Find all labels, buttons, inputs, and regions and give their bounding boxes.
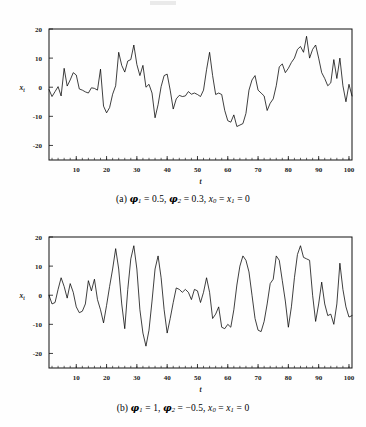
- caption-b-phi2-symbol: φ: [163, 402, 172, 413]
- x-tick-label: 100: [344, 166, 355, 174]
- caption-a-phi2-symbol: φ: [169, 193, 178, 204]
- y-tick-label: 20: [35, 234, 43, 242]
- x-tick-label: 80: [285, 166, 293, 174]
- chart-a-canvas: 20100-10-20102030405060708090100txt: [0, 8, 366, 186]
- x-tick-label: 10: [73, 374, 81, 382]
- caption-a-x1-sub: 1: [231, 197, 234, 204]
- x-tick-label: 40: [164, 166, 172, 174]
- x-tick-label: 90: [315, 166, 323, 174]
- figure-a: 20100-10-20102030405060708090100txt (a) …: [0, 8, 366, 213]
- x-tick-label: 50: [194, 166, 202, 174]
- y-tick-label: -10: [33, 321, 43, 329]
- y-tick-label: 10: [35, 263, 43, 271]
- caption-b-phi2-sub: 2: [172, 406, 175, 413]
- x-tick-label: 30: [133, 374, 141, 382]
- caption-b-phi2-value: = −0.5,: [178, 403, 206, 413]
- caption-a-phi1-symbol: φ: [129, 193, 138, 204]
- y-tick-label: -20: [33, 350, 43, 358]
- x-axis-label: t: [199, 385, 202, 394]
- caption-b-phi1-sub: 1: [139, 406, 142, 413]
- caption-a-x0-sub: 0: [213, 197, 216, 204]
- x-tick-label: 90: [315, 374, 323, 382]
- chart-b-canvas: 20100-10-20102030405060708090100txt: [0, 216, 366, 394]
- figure-a-caption: (a) φ1 = 0.5, φ2 = 0.3, x0 = x1 = 0: [0, 193, 366, 204]
- caption-b-x0-sub: 0: [212, 406, 215, 413]
- y-tick-label: -10: [33, 113, 43, 121]
- x-tick-label: 50: [194, 374, 202, 382]
- caption-a-eq-mid: =: [219, 194, 224, 204]
- x-tick-label: 80: [285, 374, 293, 382]
- y-tick-label: 0: [39, 84, 43, 92]
- y-axis-label: xt: [18, 83, 25, 93]
- y-tick-label: 10: [35, 55, 43, 63]
- figure-b: 20100-10-20102030405060708090100txt (b) …: [0, 216, 366, 422]
- caption-a-phi2-sub: 2: [178, 197, 181, 204]
- x-tick-label: 70: [255, 166, 263, 174]
- y-tick-label: 20: [35, 26, 43, 34]
- caption-a-phi1-value: = 0.5,: [144, 194, 167, 204]
- plot-area-a: 20100-10-20102030405060708090100txt: [0, 8, 366, 186]
- x-tick-label: 10: [73, 166, 81, 174]
- y-tick-label: -20: [33, 142, 43, 150]
- x-tick-label: 20: [103, 166, 111, 174]
- x-tick-label: 60: [224, 374, 232, 382]
- x-tick-label: 20: [103, 374, 111, 382]
- x-tick-label: 40: [164, 374, 172, 382]
- series-line: [49, 246, 352, 346]
- x-axis-label: t: [199, 177, 202, 186]
- caption-a-phi2-value: = 0.3,: [184, 194, 207, 204]
- caption-b-x1-value: = 0: [236, 403, 249, 413]
- caption-a-phi1-sub: 1: [138, 197, 141, 204]
- plot-frame: [49, 29, 352, 160]
- caption-b-phi1-symbol: φ: [131, 402, 140, 413]
- x-tick-label: 70: [255, 374, 263, 382]
- cropped-text-artifact: [150, 1, 176, 5]
- figure-b-caption: (b) φ1 = 1, φ2 = −0.5, x0 = x1 = 0: [0, 402, 366, 413]
- series-line: [49, 36, 352, 126]
- caption-b-phi1-value: = 1,: [145, 403, 160, 413]
- x-tick-label: 100: [344, 374, 355, 382]
- figure-page: 20100-10-20102030405060708090100txt (a) …: [0, 0, 366, 427]
- caption-a-x1-value: = 0: [237, 194, 250, 204]
- caption-b-x1-sub: 1: [231, 406, 234, 413]
- y-tick-label: 0: [39, 292, 43, 300]
- caption-a-label: (a): [116, 194, 127, 204]
- y-axis-label: xt: [18, 291, 25, 301]
- x-tick-label: 30: [133, 166, 141, 174]
- x-tick-label: 60: [224, 166, 232, 174]
- caption-b-eq-mid: =: [218, 403, 223, 413]
- plot-area-b: 20100-10-20102030405060708090100txt: [0, 216, 366, 394]
- caption-b-label: (b): [117, 403, 128, 413]
